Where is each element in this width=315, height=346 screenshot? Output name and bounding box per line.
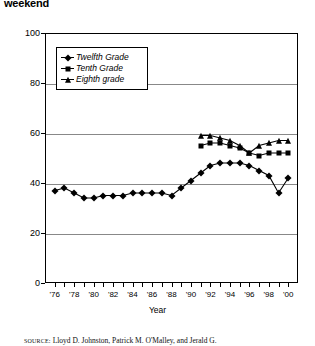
x-tick-label: '00 [283, 290, 293, 299]
x-tick-mark [74, 283, 75, 287]
x-tick-mark [210, 283, 211, 287]
y-tick-label: 20 [0, 229, 40, 238]
y-tick-mark [41, 283, 45, 284]
x-tick-label: '86 [147, 290, 157, 299]
triangle-marker-icon [276, 137, 282, 143]
x-tick-mark [142, 283, 143, 287]
x-tick-label: '92 [205, 290, 215, 299]
triangle-marker-icon [198, 132, 204, 138]
x-tick-mark [220, 283, 221, 287]
x-tick-label: '76 [50, 290, 60, 299]
x-tick-label: '96 [244, 290, 254, 299]
x-tick-mark [55, 283, 56, 287]
triangle-marker-icon [227, 137, 233, 143]
triangle-marker-icon [217, 135, 223, 141]
legend-label: Tenth Grade [76, 63, 123, 74]
chart-title: weekend [4, 0, 49, 10]
triangle-marker-icon [237, 142, 243, 148]
x-tick-label: '98 [264, 290, 274, 299]
x-tick-mark [123, 283, 124, 287]
x-tick-mark [259, 283, 260, 287]
legend-label: Twelfth Grade [76, 52, 129, 63]
chart-figure: weekend 020406080100'76'78'80'82'84'86'8… [0, 0, 315, 346]
source-note: SOURCE: Lloyd D. Johnston, Patrick M. O'… [24, 336, 217, 346]
square-marker-icon [266, 151, 271, 156]
y-tick-label: 40 [0, 179, 40, 188]
x-tick-label: '88 [166, 290, 176, 299]
x-tick-label: '78 [69, 290, 79, 299]
x-tick-mark [230, 283, 231, 287]
x-tick-mark [201, 283, 202, 287]
square-marker-icon [227, 143, 232, 148]
triangle-marker-icon [246, 150, 252, 156]
x-tick-mark [94, 283, 95, 287]
x-tick-mark [172, 283, 173, 287]
y-tick-label: 80 [0, 79, 40, 88]
x-tick-mark [152, 283, 153, 287]
x-tick-label: '90 [186, 290, 196, 299]
source-prefix: SOURCE: [24, 338, 51, 344]
x-tick-mark [64, 283, 65, 287]
x-tick-label: '80 [88, 290, 98, 299]
x-tick-label: '84 [127, 290, 137, 299]
x-tick-mark [269, 283, 270, 287]
y-tick-label: 0 [0, 279, 40, 288]
y-tick-label: 60 [0, 129, 40, 138]
x-axis-title: Year [0, 305, 315, 315]
triangle-marker-icon [207, 132, 213, 138]
x-tick-mark [288, 283, 289, 287]
x-tick-mark [240, 283, 241, 287]
x-tick-mark [113, 283, 114, 287]
triangle-marker-icon [61, 74, 74, 85]
legend-label: Eighth grade [76, 74, 124, 85]
legend-item-eighth-grade: Eighth grade [61, 74, 142, 85]
square-marker-icon [218, 141, 223, 146]
x-tick-mark [133, 283, 134, 287]
diamond-marker-icon [61, 52, 74, 63]
triangle-marker-icon [266, 140, 272, 146]
legend-item-twelfth-grade: Twelfth Grade [61, 52, 142, 63]
square-marker-icon [286, 151, 291, 156]
x-tick-mark [181, 283, 182, 287]
x-tick-mark [103, 283, 104, 287]
x-tick-mark [279, 283, 280, 287]
x-tick-mark [191, 283, 192, 287]
x-tick-mark [162, 283, 163, 287]
x-tick-label: '82 [108, 290, 118, 299]
square-marker-icon [257, 153, 262, 158]
square-marker-icon [198, 143, 203, 148]
x-tick-label: '94 [225, 290, 235, 299]
x-tick-mark [249, 283, 250, 287]
triangle-marker-icon [256, 142, 262, 148]
square-marker-icon [276, 151, 281, 156]
legend-item-tenth-grade: Tenth Grade [61, 63, 142, 74]
square-marker-icon [208, 141, 213, 146]
x-tick-mark [84, 283, 85, 287]
chart-legend: Twelfth Grade Tenth Grade Eighth grade [56, 47, 148, 90]
square-marker-icon [61, 63, 74, 74]
triangle-marker-icon [285, 137, 291, 143]
y-tick-label: 100 [0, 29, 40, 38]
